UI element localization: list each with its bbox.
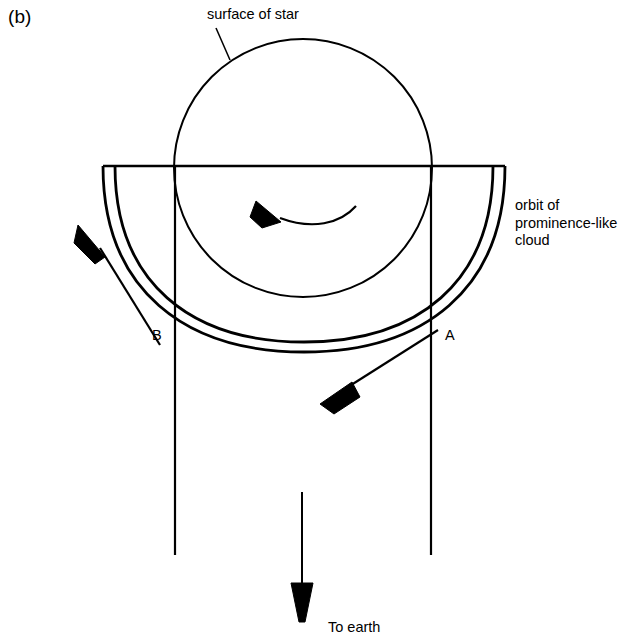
rotation-arrow-shaft	[280, 206, 356, 224]
velocity-arrow-a-head	[320, 382, 360, 414]
orbit-of-cloud-label: orbit of prominence-like cloud	[515, 197, 617, 250]
star-surface-circle	[174, 39, 432, 297]
figure-panel-b: (b) surface of star orbit of prominence-…	[0, 0, 626, 637]
orbit-diagram-canvas	[0, 0, 626, 637]
surface-of-star-label: surface of star	[207, 6, 299, 23]
velocity-arrow-b-head	[74, 225, 105, 264]
orbit-outer-arc	[103, 166, 505, 352]
panel-label: (b)	[8, 6, 32, 28]
point-label-b: B	[152, 327, 162, 344]
point-label-a: A	[445, 327, 455, 344]
surface-of-star-leader-line	[216, 28, 230, 60]
rotation-arrow-head	[250, 201, 281, 228]
to-earth-label: To earth	[328, 619, 380, 636]
to-earth-arrow-head	[291, 583, 313, 622]
